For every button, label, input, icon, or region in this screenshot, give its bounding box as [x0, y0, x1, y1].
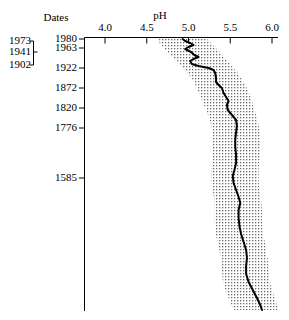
- error-band: [158, 39, 279, 310]
- y-tick-label: 1776: [36, 122, 77, 133]
- y-tick-label: 1922: [36, 62, 77, 73]
- x-tick-label: 4.5: [129, 22, 165, 33]
- error-band-area: [158, 39, 279, 310]
- bracket-date-label: 1941: [0, 46, 31, 57]
- x-tick-label: 5.0: [171, 22, 207, 33]
- bracket-date-label: 1902: [0, 59, 31, 70]
- x-tick-label: 5.5: [212, 22, 248, 33]
- x-tick-label: 4.0: [87, 22, 123, 33]
- x-tick-label: 6.0: [254, 22, 289, 33]
- y-axis-ticks: [79, 39, 85, 178]
- ph-reconstruction-figure: pH Dates 4.04.55.05.56.0 198019631922187…: [0, 0, 289, 320]
- y-tick-label: 1872: [36, 82, 77, 93]
- y-tick-label: 1963: [36, 42, 77, 53]
- y-tick-label: 1820: [36, 102, 77, 113]
- y-tick-label: 1585: [36, 172, 77, 183]
